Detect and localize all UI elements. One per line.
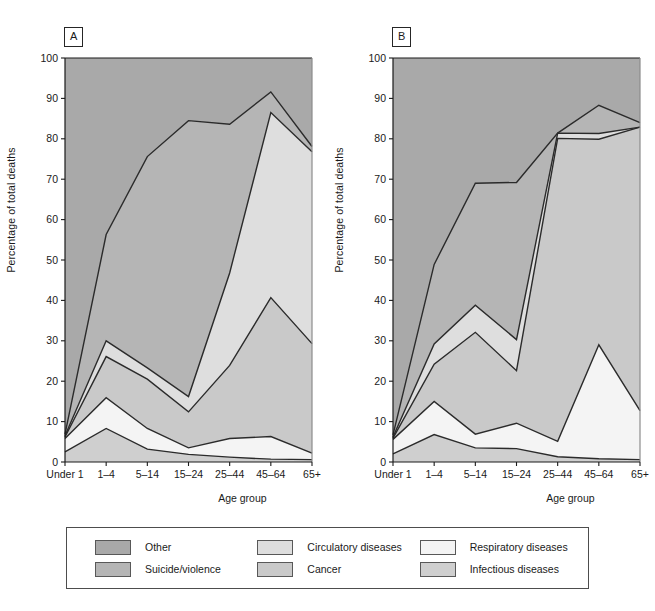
legend-swatch: [257, 540, 293, 555]
legend-swatch: [257, 562, 293, 577]
y-tick-label: 50: [374, 254, 386, 266]
legend-item: Suicide/violence: [95, 558, 257, 580]
legend-grid: OtherCirculatory diseasesRespiratory dis…: [67, 528, 588, 588]
y-tick-label: 80: [46, 132, 58, 144]
chart-panel-b: B Percentage of total deaths 01020304050…: [328, 0, 655, 505]
legend-label: Respiratory diseases: [470, 541, 568, 553]
y-tick-label: 90: [46, 92, 58, 104]
legend-label: Circulatory diseases: [307, 541, 402, 553]
y-tick-label: 70: [374, 173, 386, 185]
legend: OtherCirculatory diseasesRespiratory dis…: [66, 527, 589, 589]
y-tick-label: 20: [46, 375, 58, 387]
x-axis-title-b: Age group: [546, 492, 594, 504]
area-chart-svg-a: 0102030405060708090100Under 11–45–1415–2…: [0, 0, 327, 505]
legend-item: Other: [95, 536, 257, 558]
legend-label: Suicide/violence: [145, 563, 221, 575]
legend-item: Infectious diseases: [420, 558, 582, 580]
legend-swatch: [420, 562, 456, 577]
area-chart-svg-b: 0102030405060708090100Under 11–45–1415–2…: [328, 0, 655, 505]
y-tick-label: 30: [46, 334, 58, 346]
legend-swatch: [420, 540, 456, 555]
y-tick-label: 60: [46, 213, 58, 225]
y-tick-label: 100: [368, 52, 386, 64]
y-tick-label: 20: [374, 375, 386, 387]
legend-swatch: [95, 562, 131, 577]
legend-item: Circulatory diseases: [257, 536, 419, 558]
y-tick-label: 30: [374, 334, 386, 346]
panel-label-b: B: [392, 27, 411, 47]
y-tick-label: 100: [40, 52, 58, 64]
panel-label-a: A: [64, 27, 83, 47]
x-tick-label: 25–44: [215, 468, 244, 480]
x-axis-title-a: Age group: [218, 492, 266, 504]
legend-item: Respiratory diseases: [420, 536, 582, 558]
legend-label: Other: [145, 541, 171, 553]
plot-area-b: 0102030405060708090100Under 11–45–1415–2…: [328, 0, 655, 505]
charts-row: A Percentage of total deaths 01020304050…: [0, 0, 655, 505]
plot-area-a: 0102030405060708090100Under 11–45–1415–2…: [0, 0, 327, 505]
y-tick-label: 90: [374, 92, 386, 104]
x-tick-label: 25–44: [543, 468, 572, 480]
legend-label: Infectious diseases: [470, 563, 559, 575]
y-tick-label: 60: [374, 213, 386, 225]
x-tick-label: Under 1: [374, 468, 412, 480]
y-tick-label: 10: [46, 415, 58, 427]
x-tick-label: 5–14: [464, 468, 488, 480]
y-tick-label: 80: [374, 132, 386, 144]
x-tick-label: 45–64: [256, 468, 285, 480]
x-tick-label: 15–24: [502, 468, 531, 480]
y-tick-label: 0: [52, 456, 58, 468]
legend-label: Cancer: [307, 563, 341, 575]
x-tick-label: 65+: [303, 468, 321, 480]
y-tick-label: 10: [374, 415, 386, 427]
legend-item: Cancer: [257, 558, 419, 580]
y-tick-label: 0: [380, 456, 386, 468]
y-tick-label: 40: [46, 294, 58, 306]
y-tick-label: 70: [46, 173, 58, 185]
legend-swatch: [95, 540, 131, 555]
x-tick-label: 65+: [631, 468, 649, 480]
x-tick-label: 1–4: [97, 468, 115, 480]
x-tick-label: Under 1: [46, 468, 84, 480]
x-tick-label: 15–24: [174, 468, 203, 480]
x-tick-label: 1–4: [425, 468, 443, 480]
x-tick-label: 45–64: [584, 468, 613, 480]
y-tick-label: 40: [374, 294, 386, 306]
y-tick-label: 50: [46, 254, 58, 266]
chart-panel-a: A Percentage of total deaths 01020304050…: [0, 0, 327, 505]
x-tick-label: 5–14: [136, 468, 160, 480]
